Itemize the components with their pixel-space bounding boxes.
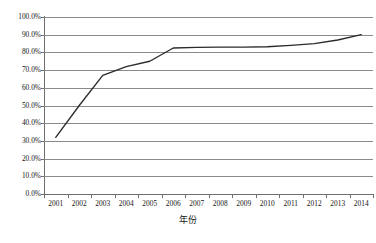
x-axis-tick <box>350 195 351 198</box>
x-axis-tick-label: 2005 <box>138 199 162 211</box>
y-axis-tick-label: 100.0% <box>1 13 41 21</box>
y-axis-tick-label: 50.0% <box>1 102 41 110</box>
x-axis-tick <box>326 195 327 198</box>
line-chart: 100.0%90.0%80.0%70.0%60.0%50.0%40.0%30.0… <box>0 0 376 243</box>
plot-area <box>44 17 373 194</box>
y-axis-tick-label: 20.0% <box>1 155 41 163</box>
x-axis-title: 年份 <box>0 214 376 226</box>
x-axis-tick-label: 2011 <box>279 199 303 211</box>
x-axis-tick-label: 2007 <box>185 199 209 211</box>
y-axis-tick-label: 10.0% <box>1 172 41 180</box>
x-axis-tick-label: 2001 <box>44 199 68 211</box>
y-axis-tick-label: 0.0% <box>1 190 41 198</box>
y-axis-tick-label: 80.0% <box>1 48 41 56</box>
x-axis-tick-label: 2006 <box>162 199 186 211</box>
x-axis-tick-label: 2002 <box>68 199 92 211</box>
x-axis-tick-label: 2014 <box>350 199 374 211</box>
x-axis-tick <box>373 195 374 198</box>
x-axis-tick-label: 2009 <box>232 199 256 211</box>
series-line <box>44 17 373 194</box>
y-axis-tick-label: 40.0% <box>1 119 41 127</box>
x-axis-tick <box>162 195 163 198</box>
y-axis-tick-label: 30.0% <box>1 137 41 145</box>
x-axis-tick <box>185 195 186 198</box>
y-axis-tick-label: 70.0% <box>1 66 41 74</box>
x-axis-tick-label: 2012 <box>303 199 327 211</box>
y-axis-tick-label: 90.0% <box>1 31 41 39</box>
x-axis-tick <box>256 195 257 198</box>
x-axis-tick-label: 2004 <box>115 199 139 211</box>
x-axis-tick-label: 2008 <box>209 199 233 211</box>
x-axis-tick <box>232 195 233 198</box>
x-axis-tick-label: 2003 <box>91 199 115 211</box>
x-axis-tick-labels: 2001200220032004200520062007200820092010… <box>44 199 373 211</box>
x-axis-tick-label: 2013 <box>326 199 350 211</box>
x-axis-tick-label: 2010 <box>256 199 280 211</box>
x-axis-tick <box>115 195 116 198</box>
x-axis-tick <box>91 195 92 198</box>
y-axis-tick-label: 60.0% <box>1 84 41 92</box>
x-axis-tick <box>68 195 69 198</box>
x-axis-tick <box>209 195 210 198</box>
y-axis-tick-labels: 100.0%90.0%80.0%70.0%60.0%50.0%40.0%30.0… <box>0 0 41 243</box>
x-axis-tick <box>44 195 45 198</box>
x-axis-tick <box>303 195 304 198</box>
x-axis-tick <box>138 195 139 198</box>
x-axis-tick <box>279 195 280 198</box>
